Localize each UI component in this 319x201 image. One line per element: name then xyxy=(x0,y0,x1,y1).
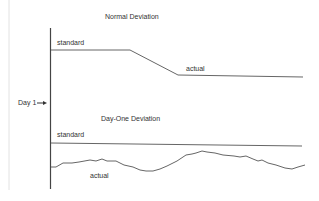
normal-standard-label: standard xyxy=(57,39,84,47)
day-one-standard-line xyxy=(51,143,302,146)
day-one-deviation-title: Day-One Deviation xyxy=(101,115,160,123)
normal-deviation-title: Normal Deviation xyxy=(105,13,159,21)
day-one-actual-line xyxy=(51,151,305,171)
day-one-standard-label: standard xyxy=(57,131,84,139)
normal-deviation-line xyxy=(51,50,303,77)
normal-actual-label: actual xyxy=(186,65,205,73)
deviation-diagram xyxy=(0,0,319,201)
day-one-actual-label: actual xyxy=(90,172,109,180)
day1-label: Day 1 xyxy=(18,99,36,107)
